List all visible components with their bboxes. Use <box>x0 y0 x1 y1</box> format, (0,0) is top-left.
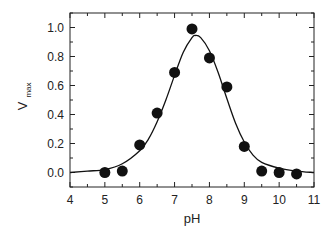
fit-curve-group <box>70 35 314 172</box>
y-tick-label: 0.6 <box>47 79 64 93</box>
data-points <box>99 23 302 179</box>
x-tick-label: 9 <box>241 193 248 207</box>
data-point <box>99 167 110 178</box>
data-point <box>152 108 163 119</box>
x-tick-label: 10 <box>272 193 286 207</box>
x-tick-label: 6 <box>136 193 143 207</box>
data-point <box>117 166 128 177</box>
chart: 45678910110.00.20.40.60.81.0 pH V max <box>0 0 336 235</box>
data-point <box>291 168 302 179</box>
x-tick-label: 5 <box>102 193 109 207</box>
y-tick-label: 0.4 <box>47 108 64 122</box>
data-point <box>134 139 145 150</box>
data-point <box>187 23 198 34</box>
data-point <box>169 67 180 78</box>
y-tick-label: 0.2 <box>47 137 64 151</box>
x-tick-label: 7 <box>171 193 178 207</box>
y-axis-title-main: V <box>15 101 30 110</box>
x-tick-label: 8 <box>206 193 213 207</box>
y-tick-label: 0.8 <box>47 50 64 64</box>
y-tick-label: 0.0 <box>47 166 64 180</box>
data-point <box>274 167 285 178</box>
fit-curve <box>70 35 314 172</box>
plot-frame <box>70 13 314 187</box>
x-axis-title: pH <box>184 211 201 226</box>
x-tick-label: 4 <box>67 193 74 207</box>
data-point <box>239 141 250 152</box>
y-axis-title: V max <box>15 82 33 110</box>
axis-ticks <box>70 13 314 187</box>
y-axis-title-subscript: max <box>24 82 33 97</box>
data-point <box>221 81 232 92</box>
data-point <box>204 52 215 63</box>
y-tick-label: 1.0 <box>47 21 64 35</box>
x-tick-label: 11 <box>308 193 321 207</box>
data-point <box>256 166 267 177</box>
tick-labels: 45678910110.00.20.40.60.81.0 <box>47 21 320 207</box>
